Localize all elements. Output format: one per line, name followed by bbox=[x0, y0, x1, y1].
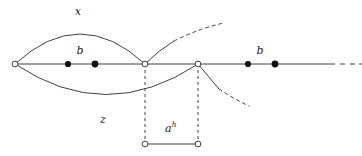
open-vertex bbox=[195, 141, 201, 147]
arc-z bbox=[15, 64, 198, 95]
open-vertex bbox=[12, 61, 18, 67]
filled-vertex bbox=[65, 61, 71, 67]
edge-label-a-exponent: h bbox=[172, 120, 177, 129]
edge-label-a-base: a bbox=[165, 122, 172, 135]
open-vertices bbox=[12, 61, 201, 147]
vertex-label-b-right: b bbox=[256, 45, 263, 56]
branch-lower-solid bbox=[198, 64, 219, 89]
branch-lower-dashed bbox=[219, 89, 249, 106]
filled-vertex bbox=[92, 61, 99, 68]
graph-drawing bbox=[0, 0, 362, 156]
edge-label-x: x bbox=[75, 6, 81, 17]
figure-canvas: x b b z ah bbox=[0, 0, 362, 156]
filled-vertex bbox=[272, 61, 279, 68]
edge-label-z: z bbox=[100, 114, 106, 125]
branch-upper-dashed bbox=[174, 23, 224, 41]
edge-label-a-power-h: ah bbox=[165, 123, 177, 134]
open-vertex bbox=[195, 61, 201, 67]
open-vertex bbox=[142, 61, 148, 67]
filled-vertex bbox=[245, 61, 251, 67]
open-vertex bbox=[142, 141, 148, 147]
branch-upper-solid bbox=[145, 41, 174, 64]
vertex-label-b-left: b bbox=[76, 45, 83, 56]
